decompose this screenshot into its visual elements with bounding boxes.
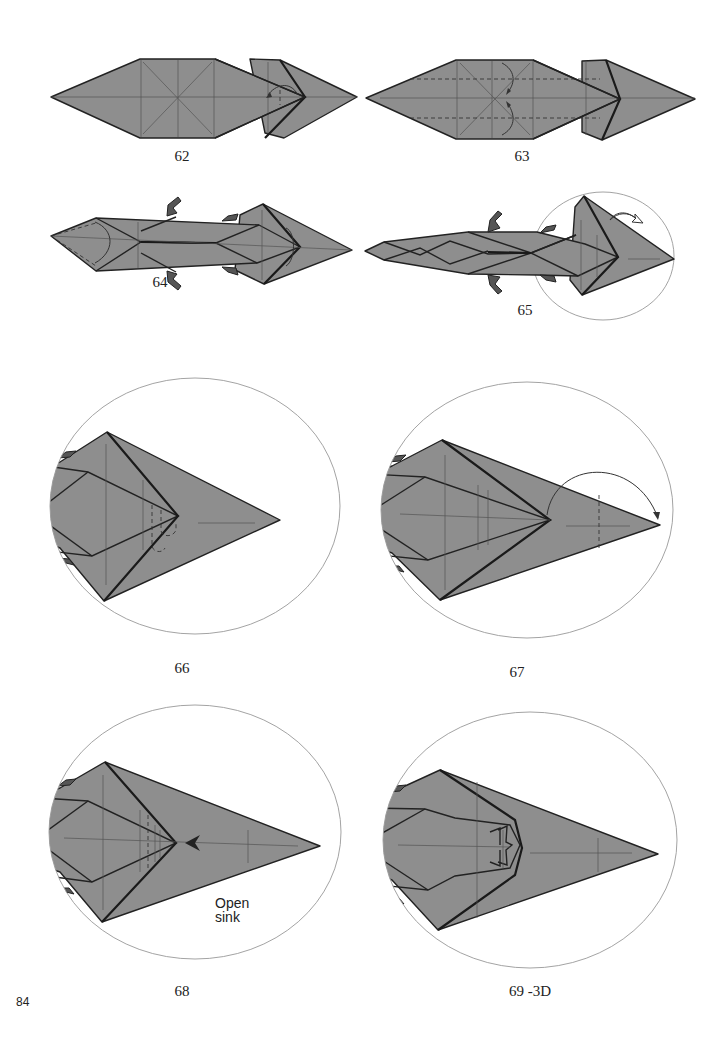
step-number: 69 -3D (500, 983, 560, 1000)
step-69: 69 -3D (370, 700, 690, 1000)
step-number: 65 (513, 302, 537, 319)
step-number: 63 (510, 148, 534, 165)
note-line-2: sink (215, 910, 249, 924)
open-sink-note: Open sink (215, 896, 249, 924)
step-number: 67 (505, 664, 529, 681)
step-69-diagram (370, 700, 690, 1000)
step-number: 66 (170, 660, 194, 677)
back-leg-bottom (222, 267, 238, 275)
step-number: 68 (170, 983, 194, 1000)
step-68-diagram (40, 700, 360, 1000)
step-67-diagram (370, 370, 690, 680)
step-66: 66 (40, 370, 360, 680)
back-leg-top (222, 214, 238, 221)
step-68: 68 (40, 700, 360, 1000)
note-line-1: Open (215, 896, 249, 910)
page-number: 84 (16, 995, 29, 1009)
step-62: 62 (0, 0, 360, 180)
step-number: 62 (170, 148, 194, 165)
step-64: 64 (0, 180, 360, 340)
step-63: 63 (360, 0, 705, 180)
step-64-diagram (0, 180, 360, 340)
step-67: 67 (370, 370, 690, 680)
step-65: 65 (360, 180, 705, 340)
step-number: 64 (148, 274, 172, 291)
step-66-diagram (40, 370, 360, 680)
front-leg-top (167, 197, 181, 216)
